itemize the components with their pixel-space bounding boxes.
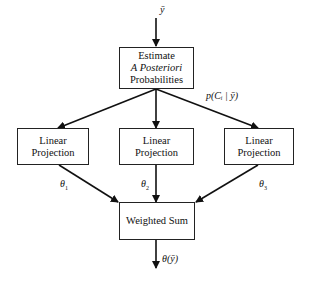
estimate-line3: Probabilities	[130, 74, 183, 86]
input-label: ȳ	[160, 4, 164, 15]
projection-label: Linear Projection	[225, 135, 293, 159]
weighted-sum-label: Weighted Sum	[126, 215, 188, 227]
estimate-line2: A Posteriori	[131, 62, 182, 74]
output-label: θ(ȳ)	[162, 253, 178, 264]
projection-label: Linear Projection	[18, 135, 88, 159]
posterior-label: p(Cᵢ | ȳ)	[206, 90, 238, 101]
theta-3-label: θ3	[259, 178, 267, 191]
linear-projection-box-3: Linear Projection	[224, 128, 294, 165]
theta-1-label: θ1	[60, 178, 68, 191]
estimate-posterior-box: Estimate A Posteriori Probabilities	[119, 47, 194, 89]
linear-projection-box-1: Linear Projection	[17, 128, 89, 165]
theta-2-label: θ2	[141, 178, 149, 191]
projection-label: Linear Projection	[120, 135, 193, 159]
linear-projection-box-2: Linear Projection	[119, 128, 194, 165]
weighted-sum-box: Weighted Sum	[119, 202, 195, 240]
estimate-line1: Estimate	[138, 50, 175, 62]
